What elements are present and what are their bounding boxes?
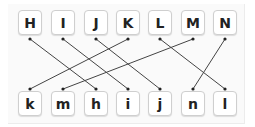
tile-lower-h[interactable]: h (84, 91, 108, 116)
top-dot[interactable] (126, 37, 129, 40)
top-dot[interactable] (191, 37, 194, 40)
top-dot[interactable] (28, 37, 31, 40)
top-dot[interactable] (223, 37, 226, 40)
tile-upper-I[interactable]: I (51, 10, 75, 35)
tile-upper-H[interactable]: H (18, 10, 42, 35)
tile-lower-n[interactable]: n (181, 91, 205, 116)
tile-lower-j[interactable]: j (148, 91, 172, 116)
tile-upper-K[interactable]: K (116, 10, 140, 35)
tile-upper-J[interactable]: J (84, 10, 108, 35)
top-dot[interactable] (158, 37, 161, 40)
tile-upper-N[interactable]: N (213, 10, 237, 35)
tile-lower-m[interactable]: m (51, 91, 75, 116)
line-M-m (63, 39, 193, 89)
tile-upper-L[interactable]: L (148, 10, 172, 35)
tile-upper-M[interactable]: M (181, 10, 205, 35)
tile-lower-i[interactable]: i (116, 91, 140, 116)
line-L-l (160, 39, 225, 89)
tile-lower-k[interactable]: k (18, 91, 42, 116)
top-dot[interactable] (61, 37, 64, 40)
line-K-k (30, 39, 128, 89)
line-N-n (193, 39, 225, 89)
tile-lower-l[interactable]: l (213, 91, 237, 116)
top-dot[interactable] (94, 37, 97, 40)
line-H-h (30, 39, 96, 89)
line-I-i (63, 39, 128, 89)
